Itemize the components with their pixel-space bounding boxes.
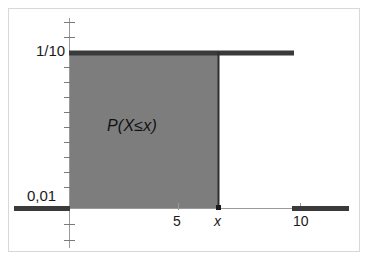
plot-area xyxy=(0,0,369,264)
x-point-marker xyxy=(216,205,221,210)
y-axis-label-one-tenth: 1/10 xyxy=(36,43,65,58)
y-axis-label-zero-zero-one: 0,01 xyxy=(27,188,56,203)
probability-area-annotation: P(X≤x) xyxy=(107,117,157,135)
x-axis-label-x-variable: x xyxy=(214,214,221,228)
plot-svg xyxy=(0,0,369,264)
x-axis-label-five: 5 xyxy=(173,214,181,228)
x-axis-label-ten: 10 xyxy=(293,214,309,228)
figure-screenshot: 1/10 0,01 5 x 10 P(X≤x) xyxy=(0,0,369,264)
